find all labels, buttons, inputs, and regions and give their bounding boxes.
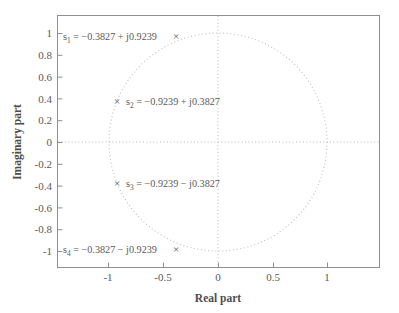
y-tick-label-8: -0.6: [35, 202, 53, 214]
marker-s2[interactable]: ×: [114, 95, 120, 107]
marker-s1[interactable]: ×: [173, 30, 179, 42]
x-tick-label-3: 0.5: [266, 271, 280, 283]
annotation-s2-expression: = −0.9239 + j0.3827: [134, 96, 220, 107]
x-axis-ticks: [109, 263, 328, 268]
annotation-s4-expression: = −0.3827 − j0.9239: [71, 244, 157, 255]
x-axis-title: Real part: [195, 292, 241, 305]
complex-plane-chart: -1 -0.5 0 0.5 1 1 0.8 0.6 0.4 0.2 0: [0, 0, 399, 313]
annotation-s1-expression: = −0.3827 + j0.9239: [71, 31, 157, 42]
annotation-s2: s2 = −0.9239 + j0.3827: [126, 96, 220, 110]
x-tick-label-2: 0: [215, 271, 221, 283]
y-tick-label-10: -1: [43, 245, 52, 257]
x-tick-labels: -1 -0.5 0 0.5 1: [103, 271, 329, 283]
marker-s4[interactable]: ×: [173, 243, 179, 255]
y-tick-label-6: -0.2: [35, 158, 52, 170]
pole-plot-figure: -1 -0.5 0 0.5 1 1 0.8 0.6 0.4 0.2 0: [0, 0, 399, 313]
y-tick-label-1: 0.8: [38, 49, 52, 61]
x-tick-label-0: -1: [103, 271, 112, 283]
annotation-s3: s3 = −0.9239 − j0.3827: [126, 178, 220, 192]
point-annotations: s1 = −0.3827 + j0.9239 s2 = −0.9239 + j0…: [63, 31, 220, 258]
annotation-s3-expression: = −0.9239 − j0.3827: [134, 178, 220, 189]
y-tick-label-7: -0.4: [35, 180, 53, 192]
y-tick-label-4: 0.2: [38, 114, 52, 126]
y-tick-labels: 1 0.8 0.6 0.4 0.2 0 -0.2 -0.4 -0.6 -0.8 …: [35, 27, 53, 257]
y-tick-label-3: 0.4: [38, 93, 52, 105]
y-tick-label-9: -0.8: [35, 223, 53, 235]
y-axis-title: Imaginary part: [11, 104, 24, 180]
x-tick-label-1: -0.5: [154, 271, 172, 283]
y-tick-label-0: 1: [47, 27, 53, 39]
y-tick-label-2: 0.6: [38, 71, 52, 83]
annotation-s1: s1 = −0.3827 + j0.9239: [63, 31, 157, 45]
marker-s3[interactable]: ×: [114, 177, 120, 189]
annotation-s4: s4 = −0.3827 − j0.9239: [63, 244, 157, 258]
y-axis-ticks: [58, 34, 63, 252]
y-tick-label-5: 0: [47, 136, 53, 148]
x-tick-label-4: 1: [324, 271, 330, 283]
